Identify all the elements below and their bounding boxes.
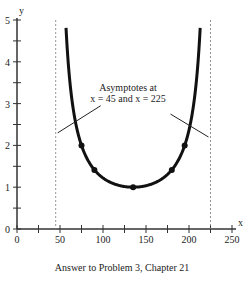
x-tick-label: 50	[55, 234, 65, 245]
chart-caption: Answer to Problem 3, Chapter 21	[0, 262, 244, 273]
y-tick-label: 1	[5, 182, 10, 193]
data-point	[182, 142, 188, 148]
data-point	[130, 184, 136, 190]
x-tick-label: 100	[96, 234, 111, 245]
x-axis-label: x	[238, 217, 243, 228]
y-tick-label: 3	[5, 99, 10, 110]
annotation-line2: x = 45 and x = 225	[90, 93, 166, 104]
data-point	[79, 142, 85, 148]
x-tick-label: 200	[182, 234, 197, 245]
y-tick-label: 0	[5, 224, 10, 235]
y-tick-label: 2	[5, 140, 10, 151]
data-point	[169, 167, 175, 173]
x-tick-label: 0	[15, 234, 20, 245]
y-tick-label: 4	[5, 57, 10, 68]
data-point	[91, 167, 97, 173]
annotation-leader-left	[58, 106, 101, 133]
chart-plot: 050100150200250012345yxAsymptotes atx = …	[0, 0, 244, 307]
y-axis-label: y	[19, 5, 24, 16]
x-tick-label: 150	[139, 234, 154, 245]
function-curve	[66, 28, 200, 187]
x-tick-label: 250	[225, 234, 240, 245]
y-tick-label: 5	[5, 15, 10, 26]
annotation-line1: Asymptotes at	[99, 82, 157, 93]
